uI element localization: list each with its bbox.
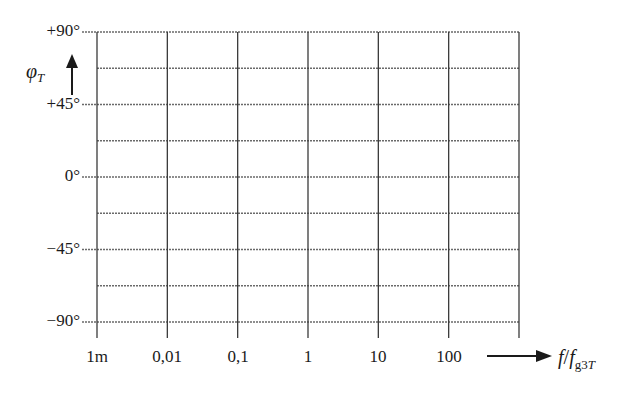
y-tick-label: −45° bbox=[0, 240, 80, 257]
vertical-grid-lines bbox=[97, 32, 519, 338]
phase-grid-chart bbox=[0, 0, 619, 403]
y-tick-label: 0° bbox=[0, 167, 80, 184]
x-tick-label: 10 bbox=[348, 348, 408, 365]
x-axis-right-arrow-icon bbox=[487, 350, 552, 362]
x-axis-title: f/fg3T bbox=[558, 346, 595, 373]
x-tick-label: 0,01 bbox=[137, 348, 197, 365]
y-tick-label: +90° bbox=[0, 22, 80, 39]
x-tick-label: 1 bbox=[278, 348, 338, 365]
y-axis-up-arrow-icon bbox=[66, 54, 78, 95]
x-tick-label: 100 bbox=[419, 348, 479, 365]
y-tick-label: −90° bbox=[0, 312, 80, 329]
horizontal-grid-lines bbox=[82, 32, 519, 322]
y-tick-label: +45° bbox=[0, 95, 80, 112]
x-tick-label: 1m bbox=[67, 348, 127, 365]
y-axis-title: φT bbox=[26, 60, 44, 86]
x-tick-label: 0,1 bbox=[208, 348, 268, 365]
